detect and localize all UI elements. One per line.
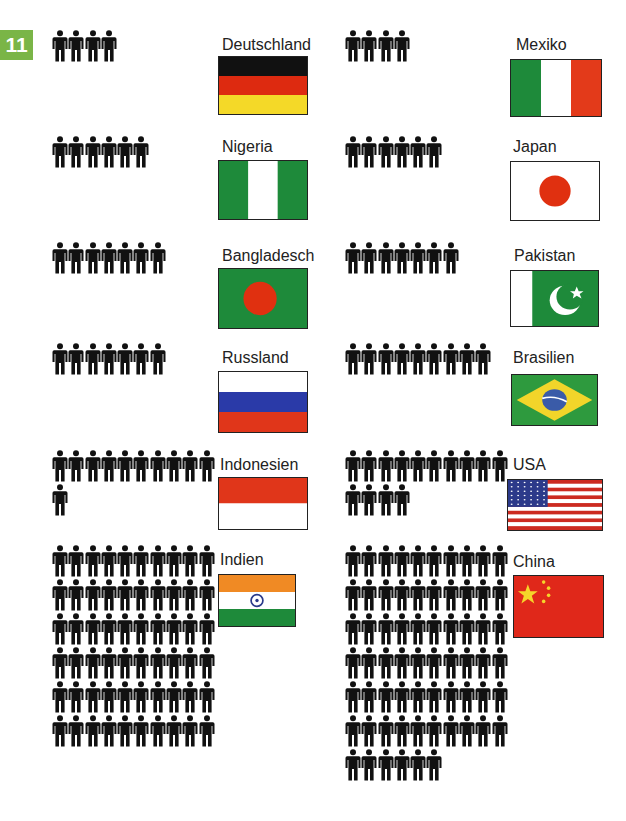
person-icon	[68, 681, 84, 715]
person-icon	[410, 579, 426, 613]
person-icon	[150, 450, 166, 484]
flag-ng-icon	[218, 160, 308, 220]
person-icon	[85, 343, 101, 377]
person-icon	[52, 484, 68, 518]
person-icon	[426, 681, 442, 715]
person-icon	[345, 715, 361, 749]
person-icon	[475, 715, 491, 749]
person-icon	[426, 343, 442, 377]
person-icon-group	[52, 30, 217, 64]
person-icon	[133, 681, 149, 715]
person-icon	[426, 579, 442, 613]
person-icon	[345, 30, 361, 64]
person-icon	[68, 30, 84, 64]
person-icon	[378, 242, 394, 276]
person-icon	[394, 613, 410, 647]
person-icon	[361, 647, 377, 681]
person-icon	[52, 579, 68, 613]
person-icon	[182, 579, 198, 613]
person-icon	[150, 343, 166, 377]
person-icon	[166, 681, 182, 715]
person-icon-group	[345, 30, 510, 64]
person-icon	[426, 136, 442, 170]
person-icon	[345, 681, 361, 715]
person-icon	[52, 715, 68, 749]
person-icon	[459, 545, 475, 579]
person-icon	[394, 484, 410, 518]
person-icon	[85, 715, 101, 749]
person-icon	[345, 450, 361, 484]
person-icon	[85, 681, 101, 715]
person-icon	[182, 613, 198, 647]
person-icon	[117, 681, 133, 715]
country-label: China	[513, 553, 555, 571]
person-icon	[410, 450, 426, 484]
person-icon	[133, 450, 149, 484]
person-icon	[345, 136, 361, 170]
flag-in-icon	[218, 574, 296, 627]
person-icon	[133, 545, 149, 579]
person-icon	[85, 579, 101, 613]
person-icon-group	[345, 450, 510, 518]
person-icon	[426, 242, 442, 276]
person-icon	[345, 545, 361, 579]
person-icon	[475, 450, 491, 484]
person-icon	[378, 715, 394, 749]
person-icon	[378, 545, 394, 579]
person-icon	[68, 450, 84, 484]
person-icon	[492, 647, 508, 681]
person-icon	[101, 545, 117, 579]
country-label: Deutschland	[222, 36, 311, 54]
person-icon	[166, 715, 182, 749]
flag-cn-icon	[513, 575, 604, 638]
person-icon	[443, 343, 459, 377]
person-icon	[182, 450, 198, 484]
flag-bd-icon	[218, 268, 308, 329]
person-icon	[394, 749, 410, 783]
person-icon	[199, 647, 215, 681]
person-icon	[101, 30, 117, 64]
person-icon	[410, 545, 426, 579]
person-icon	[361, 242, 377, 276]
person-icon	[133, 136, 149, 170]
person-icon	[361, 136, 377, 170]
person-icon	[150, 681, 166, 715]
person-icon	[394, 647, 410, 681]
person-icon	[378, 343, 394, 377]
person-icon	[378, 647, 394, 681]
person-icon-group	[52, 136, 217, 170]
person-icon	[85, 613, 101, 647]
person-icon	[394, 715, 410, 749]
person-icon-group	[52, 343, 217, 377]
person-icon	[52, 545, 68, 579]
person-icon	[394, 30, 410, 64]
person-icon	[345, 343, 361, 377]
person-icon-group	[345, 136, 510, 170]
person-icon	[101, 613, 117, 647]
person-icon	[443, 242, 459, 276]
person-icon	[117, 715, 133, 749]
person-icon	[345, 242, 361, 276]
country-label: USA	[513, 456, 546, 474]
person-icon	[117, 242, 133, 276]
person-icon	[361, 613, 377, 647]
flag-ru-icon	[218, 371, 308, 433]
person-icon	[426, 749, 442, 783]
person-icon	[150, 545, 166, 579]
person-icon-group	[52, 450, 217, 518]
country-label: Brasilien	[513, 349, 574, 367]
person-icon	[345, 647, 361, 681]
country-label: Bangladesch	[222, 247, 315, 265]
person-icon	[52, 450, 68, 484]
person-icon	[345, 613, 361, 647]
person-icon	[85, 242, 101, 276]
person-icon	[394, 136, 410, 170]
person-icon	[101, 715, 117, 749]
person-icon	[68, 136, 84, 170]
country-label: Japan	[513, 138, 557, 156]
person-icon	[475, 579, 491, 613]
person-icon	[492, 579, 508, 613]
person-icon	[133, 715, 149, 749]
person-icon	[492, 450, 508, 484]
person-icon	[117, 545, 133, 579]
